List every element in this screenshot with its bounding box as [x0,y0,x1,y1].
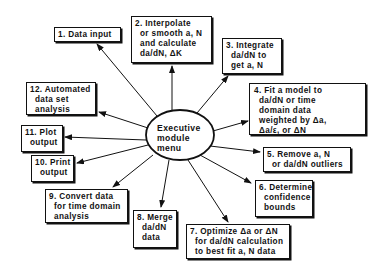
module-12-line-3: analysis [30,105,92,115]
module-4-line-4: weighted by Δa, [254,116,362,126]
module-4-fit-model[interactable]: 4. Fit a model to da/dN or time domain d… [249,83,366,135]
arrow-to-module-3 [197,76,228,113]
module-11-line-2: output [25,138,59,148]
module-8-merge[interactable]: 8. Merge da/dN data [133,210,177,248]
module-3-integrate[interactable]: 3. Integrate da/dN to get a, N [222,38,282,74]
arrow-to-module-11 [65,137,146,140]
module-6-line-2: confidence [259,193,309,203]
module-6-confidence-bounds[interactable]: 6. Determine confidence bounds [255,180,313,217]
module-10-line-1: 10. Print [35,158,70,168]
module-4-line-1: 4. Fit a model to [254,86,362,96]
module-10-line-2: output [35,168,70,178]
arrow-to-module-12 [99,112,148,128]
module-4-line-2: da/dN or time [254,96,362,106]
module-3-line-2: da/dN to [226,51,278,61]
module-12-automated-analysis[interactable]: 12. Automated data set analysis [26,82,96,115]
module-8-line-2: da/dN [137,223,173,233]
executive-module-label[interactable]: Executive module menu [157,123,201,153]
arrow-to-module-4 [213,121,248,131]
module-9-line-2: for time domain [49,202,124,212]
module-9-line-3: analysis [49,212,124,222]
module-2-line-1: 2. Interpolate [135,19,208,29]
center-line-3: menu [157,143,201,153]
module-10-print-output[interactable]: 10. Print output [31,155,74,182]
module-2-line-3: and calculate [135,39,208,49]
module-6-line-1: 6. Determine [259,183,309,193]
module-8-line-3: data [137,233,173,243]
module-2-line-2: or smooth a, N [135,29,208,39]
center-line-1: Executive [157,123,201,133]
module-7-line-1: 7. Optimize Δa or ΔN [190,227,286,237]
module-6-line-3: bounds [259,203,309,213]
module-11-plot-output[interactable]: 11. Plot output [21,125,63,152]
arrow-to-module-5 [210,146,260,152]
module-7-line-2: for da/dN calculation [190,237,286,247]
arrow-to-module-8 [161,160,169,207]
module-5-remove-outliers[interactable]: 5. Remove a, N or da/dN outliers [263,147,351,172]
arrow-to-module-9 [113,155,153,187]
module-5-line-2: or da/dN outliers [267,160,347,170]
arrow-to-module-6 [200,155,251,183]
center-line-2: module [157,133,201,143]
arrow-to-module-7 [188,160,228,222]
module-3-line-3: get a, N [226,61,278,71]
module-5-line-1: 5. Remove a, N [267,150,347,160]
module-9-line-1: 9. Convert data [49,192,124,202]
module-7-optimize[interactable]: 7. Optimize Δa or ΔN for da/dN calculati… [186,224,290,259]
module-2-interpolate[interactable]: 2. Interpolate or smooth a, N and calcul… [131,16,212,63]
module-9-convert-data[interactable]: 9. Convert data for time domain analysis [45,189,128,223]
module-2-line-4: da/dN, ΔK [135,49,208,59]
module-12-line-1: 12. Automated [30,85,92,95]
module-12-line-2: data set [30,95,92,105]
module-7-line-3: to best fit a, N data [190,247,286,257]
module-8-line-1: 8. Merge [137,213,173,223]
module-1-data-input[interactable]: 1. Data input [54,27,121,42]
arrow-to-module-10 [77,145,148,163]
module-4-line-5: Δa/ε, or ΔN [254,126,362,136]
module-4-line-3: domain data [254,106,362,116]
module-3-line-1: 3. Integrate [226,41,278,51]
module-1-line-1: 1. Data input [58,30,117,40]
module-11-line-1: 11. Plot [25,128,59,138]
